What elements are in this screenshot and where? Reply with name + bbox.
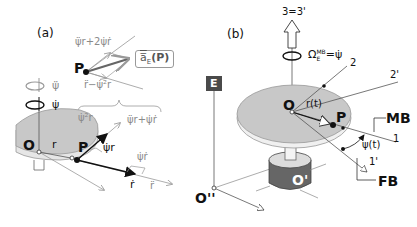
coriolis-part-label: ψ̇ṙ: [137, 152, 148, 162]
axis-1p-label: 1': [369, 157, 378, 167]
axis-2p-label: 2': [390, 70, 399, 80]
radial-velocity-label: ṙ: [130, 179, 135, 190]
frame-MB-label: MB: [386, 111, 411, 125]
radius-r-label: r: [52, 139, 57, 150]
radial-accel-short-label: r̈: [150, 181, 154, 191]
point-P-label-b: P: [336, 110, 346, 124]
centripetal-label: ψ̇²r: [78, 113, 93, 123]
axis-3-label: 3=3': [282, 7, 306, 17]
panel-a-label: (a): [37, 27, 54, 39]
omega-sup: MB: [316, 48, 325, 55]
accel-arg: (P): [151, 51, 169, 64]
omega-sub: E: [316, 55, 325, 62]
omega-label: ΩMBE=ψ̇: [308, 48, 342, 62]
point-P-label-a2: P: [78, 140, 88, 154]
radial-accel-label: r̈−ψ̇²r: [84, 80, 111, 90]
radius-rt-label: r(t): [306, 99, 322, 109]
accel-symbol: a̅: [140, 51, 147, 64]
origin-O-label-b: O: [283, 98, 295, 112]
transverse-accel-label: ψ̈r+2ψ̇ṙ: [75, 37, 111, 47]
panel-b-label: (b): [227, 28, 244, 40]
omega-eq: =ψ̇: [326, 48, 342, 61]
rot-accel-symbol: ψ̈: [52, 80, 59, 91]
point-P-label-a: P: [74, 61, 84, 75]
transverse-sum-label: ψ̈r+ψ̇ṙ: [127, 115, 157, 125]
frame-E-badge: E: [206, 76, 222, 91]
origin-Op-label: O': [292, 173, 308, 187]
velocity-transverse-label: ψ̇r: [103, 142, 115, 153]
frame-FB-label: FB: [378, 174, 398, 188]
axis-2-label: 2: [350, 58, 356, 68]
rot-rate-symbol: ψ̇: [52, 99, 59, 110]
angle-psi-label: ψ(t): [362, 140, 380, 150]
acceleration-box: a̅E(P): [135, 50, 174, 68]
omega-symbol: Ω: [308, 48, 316, 61]
axis-1-label: 1: [393, 134, 399, 144]
origin-O-label-a: O: [23, 138, 35, 152]
origin-Opp-label: O'': [195, 191, 215, 205]
